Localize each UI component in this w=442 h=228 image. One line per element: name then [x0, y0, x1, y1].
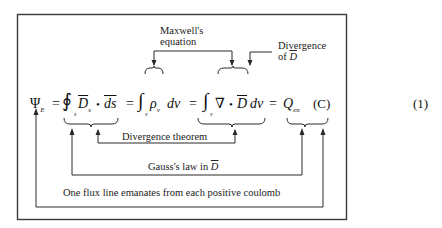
volume-integral-sign-2: ∫ — [203, 92, 208, 108]
q-subscript: en — [293, 106, 300, 114]
of-text: of — [278, 51, 289, 62]
d-subscript: s — [88, 106, 91, 114]
q-symbol: Q — [283, 96, 293, 111]
d-vector: D — [78, 96, 88, 111]
equals-2: = — [126, 96, 134, 112]
maxwell-label-line2: equation — [160, 36, 203, 47]
nabla-symbol: ∇ — [215, 96, 225, 112]
dv-2: dv — [250, 96, 263, 112]
unit-label: (C) — [313, 96, 330, 112]
enclosed-charge: Qen — [283, 96, 300, 114]
maxwell-bracket — [154, 51, 232, 65]
gauss-law-diagram: Maxwell's equation Divergence of D Diver… — [0, 0, 442, 228]
volume-integral-sign-1: ∫ — [138, 92, 143, 108]
dot-1: • — [96, 96, 100, 112]
under-brace-charge — [287, 118, 328, 127]
under-brace-surface — [64, 118, 118, 127]
divergence-theorem-label: Divergence theorem — [122, 131, 207, 142]
volume-limit-2: v — [210, 111, 213, 117]
maxwell-label: Maxwell's equation — [160, 25, 203, 47]
equals-4: = — [269, 96, 277, 112]
volume-limit-1: v — [145, 111, 148, 117]
gauss-law-text: Gauss's law in — [148, 161, 211, 172]
flux-symbol: ΨE — [30, 96, 45, 114]
surface-limit: s — [74, 111, 76, 117]
surface-integrand: Ds — [78, 96, 91, 114]
gauss-law-label: Gauss's law in D — [148, 161, 218, 172]
rho-subscript: v — [157, 106, 160, 114]
divergence-of-d-line1: Divergence — [278, 40, 326, 51]
under-brace-nabla — [198, 118, 265, 127]
ds-vector: ds — [104, 96, 116, 112]
over-brace-rho — [145, 66, 163, 74]
d-vector-2: D — [237, 96, 247, 112]
charge-density: ρv — [150, 96, 160, 114]
rho-symbol: ρ — [150, 96, 157, 111]
divergence-of-d-line2: of D — [278, 51, 326, 62]
surface-integral-sign: ∮ — [62, 93, 72, 109]
psi-symbol: Ψ — [30, 96, 40, 111]
d-vector-symbol: D — [211, 161, 219, 172]
divergence-of-d-bracket — [250, 52, 272, 65]
maxwell-label-line1: Maxwell's — [160, 25, 203, 36]
divergence-of-d-label: Divergence of D — [278, 40, 326, 62]
psi-subscript: E — [40, 106, 44, 114]
equation-number: (1) — [413, 96, 428, 112]
equals-3: = — [189, 96, 197, 112]
over-brace-nabla — [218, 66, 248, 74]
equals-1: = — [52, 96, 60, 112]
dv-1: dv — [167, 96, 180, 112]
dot-2: • — [229, 96, 233, 112]
d-vector-symbol: D — [289, 51, 297, 62]
flux-line-label: One flux line emanates from each positiv… — [63, 187, 280, 198]
